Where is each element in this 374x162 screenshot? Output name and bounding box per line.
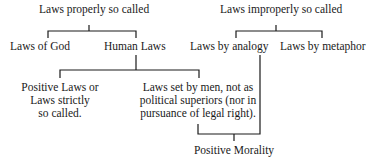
connector-right-root-bracket [236, 31, 322, 38]
node-laws-set-by-men: Laws set by men, not as political superi… [136, 81, 260, 120]
node-positive-laws-line-2: Laws strictly [12, 94, 108, 107]
node-laws-of-god: Laws of God [10, 40, 70, 53]
node-laws-properly-so-called: Laws properly so called [39, 3, 139, 16]
node-laws-by-metaphor: Laws by metaphor [280, 40, 366, 53]
connector-human-laws-bracket [60, 70, 199, 78]
node-positive-laws-line-1: Positive Laws or [12, 81, 108, 94]
node-laws-set-by-men-line-1: Laws set by men, not as [136, 81, 260, 94]
node-positive-laws: Positive Laws or Laws strictly so called… [12, 81, 108, 120]
node-positive-morality: Positive Morality [184, 144, 284, 157]
node-human-laws: Human Laws [104, 40, 166, 53]
node-laws-by-analogy: Laws by analogy [190, 40, 269, 53]
node-laws-improperly-so-called: Laws improperly so called [220, 3, 332, 16]
node-laws-set-by-men-line-2: political superiors (nor in [136, 94, 260, 107]
node-positive-laws-line-3: so called. [12, 107, 108, 120]
connector-left-root-bracket [48, 31, 136, 38]
node-laws-set-by-men-line-3: pursuance of legal right). [136, 107, 260, 120]
